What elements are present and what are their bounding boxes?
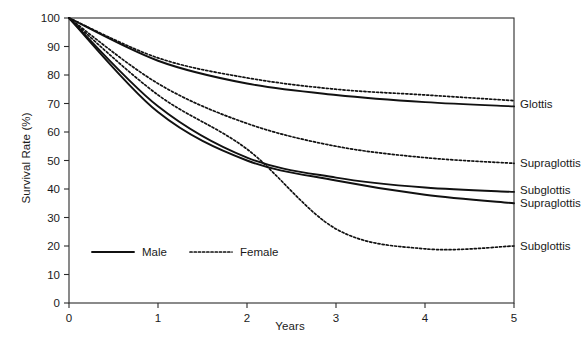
legend-label-male: Male xyxy=(142,246,167,258)
curve-end-label: Supraglottis xyxy=(520,157,581,169)
y-tick-label: 30 xyxy=(47,212,60,224)
y-tick-label: 50 xyxy=(47,155,60,167)
survival-curves xyxy=(69,18,514,250)
y-tick-label: 70 xyxy=(47,98,60,110)
x-axis-title: Years xyxy=(230,320,350,332)
curve-end-label: Subglottis xyxy=(520,184,571,196)
curve-end-label: Glottis xyxy=(520,98,553,110)
y-tick-label: 80 xyxy=(47,69,60,81)
curve-subglottis-female xyxy=(69,18,514,250)
x-tick-label: 5 xyxy=(511,312,517,324)
y-tick-label: 60 xyxy=(47,126,60,138)
curve-end-label: Subglottis xyxy=(520,240,571,252)
y-tick-label: 40 xyxy=(47,183,60,195)
x-tick-label: 0 xyxy=(66,312,72,324)
curve-end-labels: GlottisSupraglottisSubglottisSupraglotti… xyxy=(520,98,581,253)
curve-glottis-female xyxy=(69,18,514,101)
y-axis-title: Survival Rate (%) xyxy=(20,88,32,228)
chart-canvas: 0102030405060708090100 012345 GlottisSup… xyxy=(0,0,585,350)
y-tick-label: 20 xyxy=(47,240,60,252)
curve-end-label: Supraglottis xyxy=(520,197,581,209)
x-tick-label: 1 xyxy=(155,312,161,324)
curve-supraglottis-male xyxy=(69,18,514,203)
plot-frame xyxy=(69,18,514,303)
y-tick-label: 0 xyxy=(54,297,60,309)
curve-glottis-male xyxy=(69,18,514,106)
y-tick-label: 10 xyxy=(47,269,60,281)
x-tick-label: 4 xyxy=(422,312,429,324)
legend-label-female: Female xyxy=(240,246,278,258)
chart-legend: Male Female xyxy=(92,246,278,258)
y-tick-label: 90 xyxy=(47,41,60,53)
y-tick-label: 100 xyxy=(41,12,60,24)
y-axis-ticks: 0102030405060708090100 xyxy=(41,12,69,309)
curve-subglottis-male xyxy=(69,18,514,192)
survival-rate-chart: 0102030405060708090100 012345 GlottisSup… xyxy=(0,0,585,350)
